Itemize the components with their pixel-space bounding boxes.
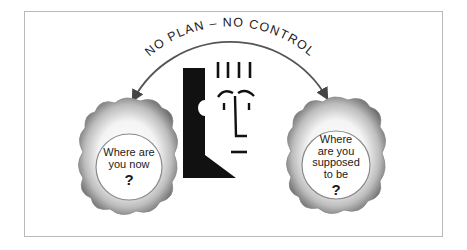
left-bubble-text: Where are you now ? <box>99 146 159 188</box>
right-bubble-line-1: Where <box>306 134 366 146</box>
left-bubble-line-1: Where are <box>99 146 159 158</box>
right-bubble-line-3: supposed <box>306 157 366 169</box>
left-bubble-line-2: you now <box>99 158 159 170</box>
face-profile-icon <box>183 62 254 178</box>
diagram-canvas: NO PLAN – NO CONTROL <box>0 0 467 250</box>
question-mark-icon: ? <box>99 172 159 188</box>
question-mark-icon: ? <box>306 182 366 198</box>
arc-title: NO PLAN – NO CONTROL <box>142 15 318 59</box>
right-bubble-text: Where are you supposed to be ? <box>306 134 366 198</box>
right-bubble-line-4: to be <box>306 169 366 181</box>
